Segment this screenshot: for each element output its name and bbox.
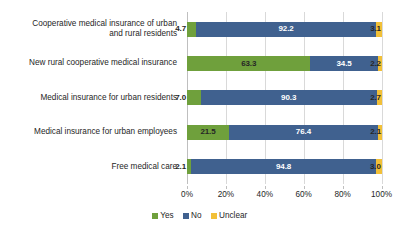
bar-rows: 4.7 92.2 3.1 63.3 34.5 [187,12,382,184]
segment-unclear-2[interactable]: 2.7 [377,90,382,105]
segment-no-2-value: 90.3 [281,94,296,102]
tick-label-4: 80% [334,190,350,199]
segment-yes-1-value: 63.3 [241,60,256,68]
segment-no-3-value: 76.4 [296,128,311,136]
segment-yes-2[interactable]: 7.0 [187,90,201,105]
segment-no-2[interactable]: 90.3 [201,90,377,105]
table-row: 7.0 90.3 2.7 [187,81,382,115]
category-label-4: Free medical care [0,150,181,184]
segment-yes-4-value: 2.1 [175,163,186,171]
segment-unclear-4[interactable]: 3.0 [376,159,382,174]
tick-mark-5 [382,186,383,189]
legend-swatch-no-icon [183,213,189,219]
segment-unclear-1[interactable]: 2.2 [378,56,382,71]
segment-no-1[interactable]: 34.5 [310,56,377,71]
category-label-3-line-0: Medical insurance for urban employees [34,127,177,138]
stacked-bar-4: 2.1 94.8 3.0 [187,159,382,174]
category-label-0-line-0: Cooperative medical insurance of urban [32,19,177,30]
category-axis-labels: Cooperative medical insurance of urban a… [0,12,181,184]
legend-item-yes[interactable]: Yes [152,212,174,220]
stacked-bar-2: 7.0 90.3 2.7 [187,90,382,105]
segment-unclear-1-value: 2.2 [370,60,381,68]
stacked-bar-0: 4.7 92.2 3.1 [187,22,382,37]
segment-no-0-value: 92.2 [278,25,293,33]
category-label-2: Medical insurance for urban residents [0,81,181,115]
segment-yes-3-value: 21.5 [200,128,215,136]
legend-label-no: No [191,212,201,220]
tick-mark-1 [226,186,227,189]
tick-mark-4 [343,186,344,189]
segment-no-4-value: 94.8 [276,163,291,171]
category-label-4-line-0: Free medical care [111,162,177,173]
segment-no-0[interactable]: 92.2 [196,22,376,37]
segment-unclear-3-value: 2.1 [370,128,381,136]
category-label-0-line-1: and rural residents [32,29,177,40]
table-row: 2.1 94.8 3.0 [187,150,382,184]
tick-label-0: 0% [181,190,193,199]
segment-unclear-2-value: 2.7 [370,94,381,102]
tick-label-2: 40% [257,190,273,199]
legend-item-unclear[interactable]: Unclear [211,212,248,220]
segment-unclear-4-value: 3.0 [370,163,381,171]
legend-item-no[interactable]: No [183,212,202,220]
tick-mark-0 [187,186,188,189]
tick-mark-3 [304,186,305,189]
category-label-1-line-0: New rural cooperative medical insurance [29,58,177,69]
tick-label-5: 100% [371,190,392,199]
plot-area: 4.7 92.2 3.1 63.3 34.5 [187,12,382,184]
segment-unclear-0-value: 3.1 [370,25,381,33]
legend-label-unclear: Unclear [219,212,247,220]
table-row: 63.3 34.5 2.2 [187,46,382,80]
legend-swatch-unclear-icon [211,213,217,219]
segment-yes-0[interactable]: 4.7 [187,22,196,37]
chart-legend: Yes No Unclear [0,212,399,220]
table-row: 4.7 92.2 3.1 [187,12,382,46]
stacked-bar-1: 63.3 34.5 2.2 [187,56,382,71]
tick-label-3: 60% [295,190,311,199]
tick-label-1: 20% [218,190,234,199]
segment-no-4[interactable]: 94.8 [191,159,376,174]
category-label-0: Cooperative medical insurance of urban a… [0,12,181,46]
category-label-3: Medical insurance for urban employees [0,115,181,149]
stacked-bar-3: 21.5 76.4 2.1 [187,125,382,140]
segment-unclear-0[interactable]: 3.1 [376,22,382,37]
category-label-2-line-0: Medical insurance for urban residents [40,93,177,104]
legend-swatch-yes-icon [152,213,158,219]
legend-label-yes: Yes [160,212,173,220]
tick-mark-2 [265,186,266,189]
value-axis: 0% 20% 40% 60% 80% 100% [187,186,382,202]
segment-unclear-3[interactable]: 2.1 [378,125,382,140]
stacked-bar-chart: Cooperative medical insurance of urban a… [0,0,399,237]
segment-yes-2-value: 7.0 [175,94,186,102]
segment-no-1-value: 34.5 [336,60,351,68]
segment-yes-1[interactable]: 63.3 [187,56,310,71]
segment-yes-0-value: 4.7 [175,25,186,33]
category-label-1: New rural cooperative medical insurance [0,46,181,80]
table-row: 21.5 76.4 2.1 [187,115,382,149]
segment-yes-3[interactable]: 21.5 [187,125,229,140]
segment-no-3[interactable]: 76.4 [229,125,378,140]
